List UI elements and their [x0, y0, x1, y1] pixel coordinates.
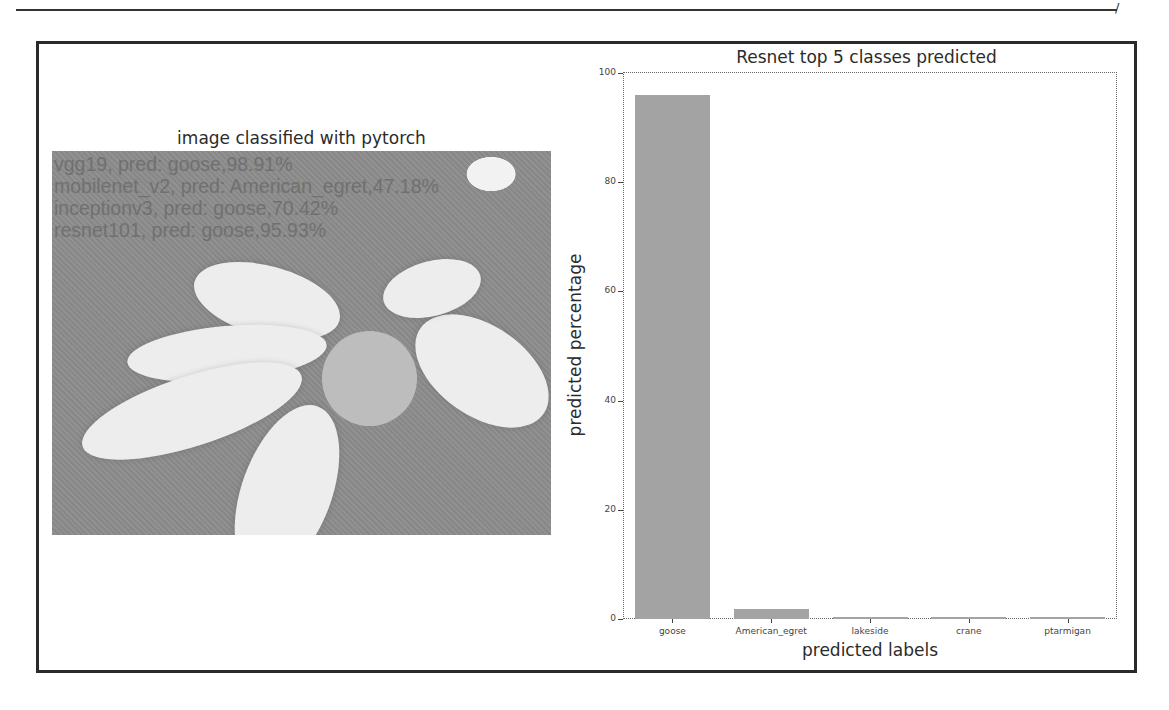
x-tick-mark [870, 619, 871, 623]
prediction-inceptionv3: inceptionv3, pred: goose,70.42% [54, 197, 439, 219]
x-axis-label: predicted labels [623, 640, 1117, 660]
y-tick-label: 80 [586, 176, 616, 186]
y-tick-label: 40 [586, 395, 616, 405]
y-tick-label: 20 [586, 504, 616, 514]
x-tick-label: crane [919, 626, 1019, 636]
feeding-bowl [322, 331, 417, 426]
y-tick-mark [618, 619, 623, 620]
y-tick-mark [618, 182, 623, 183]
y-tick-label: 100 [586, 67, 616, 77]
y-axis-label: predicted percentage [565, 254, 585, 437]
prediction-resnet101: resnet101, pred: goose,95.93% [54, 219, 439, 241]
y-tick-mark [618, 401, 623, 402]
y-tick-mark [618, 291, 623, 292]
y-tick-mark [618, 510, 623, 511]
prediction-mobilenet: mobilenet_v2, pred: American_egret,47.18… [54, 175, 439, 197]
x-tick-mark [1068, 619, 1069, 623]
x-tick-label: ptarmigan [1018, 626, 1118, 636]
prediction-overlay: vgg19, pred: goose,98.91% mobilenet_v2, … [54, 153, 439, 241]
x-tick-label: lakeside [820, 626, 920, 636]
x-tick-mark [771, 619, 772, 623]
page-top-rule [16, 9, 1117, 11]
y-tick-label: 60 [586, 285, 616, 295]
bar-goose [635, 95, 710, 619]
x-tick-label: goose [622, 626, 722, 636]
x-tick-mark [969, 619, 970, 623]
image-title: image classified with pytorch [52, 128, 551, 148]
prediction-vgg19: vgg19, pred: goose,98.91% [54, 153, 439, 175]
y-tick-label: 0 [586, 613, 616, 623]
goose-photo: vgg19, pred: goose,98.91% mobilenet_v2, … [52, 151, 551, 535]
bar-american_egret [734, 609, 809, 619]
x-tick-label: American_egret [721, 626, 821, 636]
page-corner-mark: / [1115, 0, 1119, 15]
chart-title: Resnet top 5 classes predicted [616, 47, 1117, 67]
x-tick-mark [672, 619, 673, 623]
y-tick-mark [618, 73, 623, 74]
